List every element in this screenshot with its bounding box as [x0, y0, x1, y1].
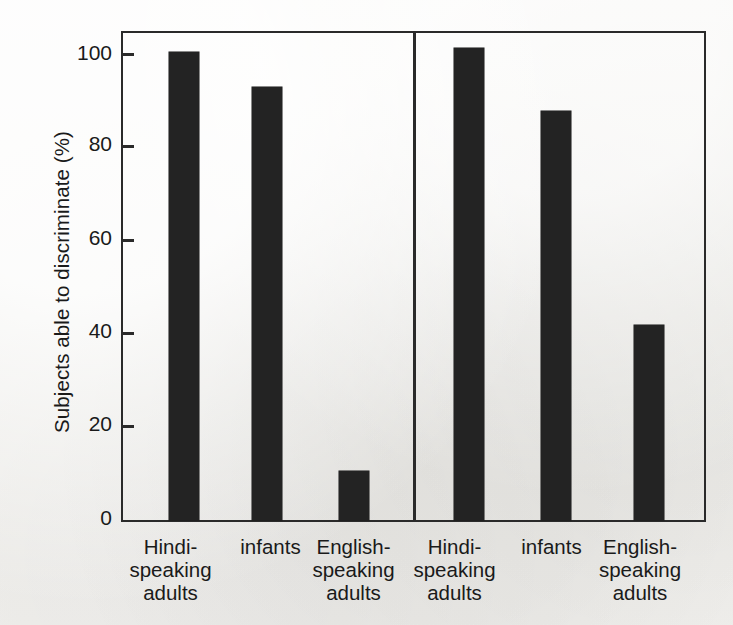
y-axis-tick-60	[122, 239, 134, 242]
bar-right-hindi-speaking-adults	[454, 48, 484, 520]
plot-area	[121, 31, 706, 522]
y-axis-tick-40	[122, 332, 134, 335]
x-label-line: adults	[397, 581, 512, 604]
bar-right-english-speaking-adults	[634, 325, 664, 520]
y-axis-tick-20	[122, 425, 134, 428]
bar-left-english-speaking-adults	[339, 471, 369, 520]
y-tick-label-0: 0	[52, 507, 112, 528]
x-axis-category-labels: Hindi- speaking adults infants English- …	[0, 531, 733, 625]
y-tick-label-20: 20	[52, 413, 112, 434]
x-label-line: English-	[296, 535, 411, 558]
x-label-line: English-	[580, 535, 700, 558]
x-label-line: adults	[580, 581, 700, 604]
x-label-left-english-speaking-adults: English- speaking adults	[296, 535, 411, 604]
y-axis-tick-100	[122, 53, 134, 56]
x-label-line: adults	[296, 581, 411, 604]
x-label-line: speaking	[580, 558, 700, 581]
y-tick-label-40: 40	[52, 320, 112, 341]
y-tick-label-60: 60	[52, 227, 112, 248]
y-axis-tick-80	[122, 145, 134, 148]
x-label-right-english-speaking-adults: English- speaking adults	[580, 535, 700, 604]
y-tick-label-80: 80	[52, 133, 112, 154]
x-label-line: adults	[113, 581, 228, 604]
bar-left-hindi-speaking-adults	[169, 52, 199, 520]
x-label-line: Hindi-	[113, 535, 228, 558]
x-label-line: speaking	[113, 558, 228, 581]
x-label-line: speaking	[296, 558, 411, 581]
x-label-line: speaking	[397, 558, 512, 581]
x-label-left-hindi-speaking-adults: Hindi- speaking adults	[113, 535, 228, 604]
y-tick-label-100: 100	[52, 42, 112, 63]
bar-left-infants	[252, 87, 282, 520]
panel-divider	[413, 33, 416, 520]
bar-right-infants	[541, 111, 571, 520]
bar-chart-figure: Subjects able to discriminate (%) 100 80…	[0, 0, 733, 625]
